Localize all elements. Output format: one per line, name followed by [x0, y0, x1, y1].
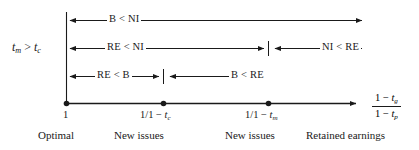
condition-label-sub2: c: [37, 46, 41, 55]
axis-tick-label-origin: 1: [63, 110, 68, 121]
axis-tick-label-one-over-one-minus-tm: 1/1 − tm: [245, 110, 278, 122]
axis-point-origin: [64, 101, 70, 107]
diagram-canvas: [0, 0, 419, 150]
segment-label-ni-lt-re: NI < RE: [320, 42, 361, 53]
axis-point-one-over-one-minus-tm: [266, 101, 272, 107]
zone-label-new-issues-2: New issues: [225, 130, 275, 141]
segment-label-b-lt-re: B < RE: [229, 70, 266, 81]
tick-tc-sub: c: [168, 114, 171, 122]
tick-tc-lead: 1/1 −: [140, 109, 165, 120]
axis-tick-label-one-over-one-minus-tc: 1/1 − tc: [140, 110, 171, 122]
condition-label: tm > tc: [12, 41, 41, 55]
axis-label-numerator: 1 − tg: [372, 92, 401, 107]
segment-label-re-lt-b: RE < B: [95, 70, 132, 81]
tick-tm-sub: m: [273, 114, 278, 122]
segment-label-b-lt-ni: B < NI: [107, 14, 141, 25]
condition-label-relation: >: [21, 40, 34, 54]
axis-label-denominator: 1 − tp: [372, 107, 401, 121]
tick-tm-lead: 1/1 −: [245, 109, 270, 120]
axis-den-lead: 1 −: [375, 108, 391, 119]
zone-label-retained-earnings: Retained earnings: [306, 130, 385, 141]
axis-den-sub: p: [394, 113, 398, 121]
zone-label-optimal: Optimal: [38, 130, 74, 141]
tax-preference-number-line-diagram: tm > tc B < NI RE < NI NI < RE RE < B B …: [0, 0, 419, 150]
zone-label-new-issues-1: New issues: [114, 130, 164, 141]
axis-point-one-over-one-minus-tc: [161, 101, 167, 107]
axis-num-sub: g: [394, 97, 398, 105]
axis-label-fraction: 1 − tg 1 − tp: [372, 92, 401, 121]
axis-num-lead: 1 −: [375, 92, 391, 103]
segment-label-re-lt-ni: RE < NI: [105, 42, 146, 53]
